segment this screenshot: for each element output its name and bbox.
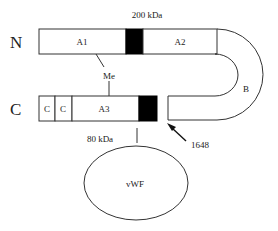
domain-c2-label: C [44, 104, 50, 114]
vwf-label: vWF [126, 179, 144, 189]
acidic-region-light [139, 96, 157, 121]
metal-link-heavy [96, 54, 104, 67]
domain-a3-label: A3 [99, 104, 110, 114]
n-terminus-label: N [10, 33, 22, 52]
domain-a2-label: A2 [175, 37, 186, 47]
b-domain-label: B [243, 84, 249, 94]
heavy-chain-mass-label: 200 kDa [132, 10, 163, 20]
factor-viii-diagram: N C 200 kDa A1 A2 B C C A3 Me 80 kDa 164… [0, 0, 278, 231]
cleavage-site-label: 1648 [191, 140, 210, 150]
metal-ion-label: Me [103, 71, 115, 81]
domain-c1-label: C [60, 104, 66, 114]
light-chain-mass-label: 80 kDa [87, 134, 113, 144]
domain-a1-label: A1 [77, 37, 88, 47]
cleavage-arrow [167, 123, 186, 141]
acidic-region-heavy [126, 29, 143, 54]
c-terminus-label: C [10, 100, 21, 119]
heavy-chain [39, 29, 217, 54]
diagram-canvas: N C 200 kDa A1 A2 B C C A3 Me 80 kDa 164… [0, 0, 278, 231]
